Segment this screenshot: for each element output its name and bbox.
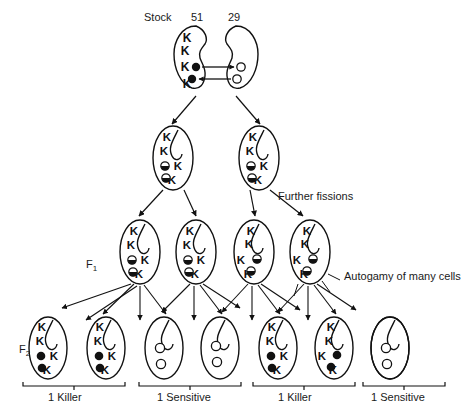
f2-letter: F [19, 343, 26, 355]
gene-K: K [260, 160, 269, 172]
gene-K: K [181, 60, 190, 74]
gene-K: K [249, 131, 258, 143]
f1-subscript: 1 [93, 264, 97, 273]
stock-label: Stock [144, 11, 172, 23]
gene-K: K [183, 31, 192, 45]
gene-K: K [327, 321, 336, 333]
gene-K: K [94, 335, 103, 347]
gene-K: K [186, 225, 195, 237]
lineage-arrow [172, 96, 196, 124]
gene-K: K [50, 350, 59, 362]
gene-K: K [245, 238, 254, 250]
gene-K: K [36, 335, 45, 347]
fission-arrow [144, 285, 166, 314]
kappa-filled-icon [192, 63, 200, 71]
lineage-arrow [236, 96, 260, 124]
gene-K: K [303, 225, 312, 237]
bracket-3 [253, 382, 355, 390]
kappa-half-group-f1 [128, 255, 317, 276]
bracket-4 [363, 382, 445, 390]
bracket-label-1: 1 Killer [48, 391, 82, 403]
further-fissions-label: Further fissions [278, 190, 353, 202]
kappa-open-icon [233, 75, 241, 83]
gene-K: K [38, 321, 47, 333]
gene-K: K [318, 350, 327, 362]
fission-arrow [162, 284, 190, 312]
bracket-2 [139, 382, 241, 390]
f1-label: F1 [86, 258, 97, 273]
gene-K: K [183, 239, 192, 251]
fission-arrow [62, 284, 131, 308]
gene-K: K [141, 254, 150, 266]
gene-K: K [237, 254, 246, 266]
autogamy-label: Autogamy of many cells [344, 270, 461, 282]
bracket-label-2: 1 Sensitive [157, 391, 211, 403]
f2-subscript: 2 [26, 349, 30, 358]
gene-K: K [108, 350, 117, 362]
gene-K: K [301, 238, 310, 250]
fission-arrow [222, 284, 248, 312]
gene-K: K [280, 350, 289, 362]
bracket-label-3: 1 Killer [278, 391, 312, 403]
gene-K: K [181, 44, 190, 58]
kappa-open-icon [237, 63, 245, 71]
gene-K: K [293, 254, 302, 266]
f1-letter: F [86, 258, 93, 270]
gene-K: K [96, 321, 105, 333]
stock-51-label: 51 [191, 11, 203, 23]
gene-K: K [127, 239, 136, 251]
gene-K: K [197, 254, 206, 266]
gene-K: K [130, 225, 139, 237]
gene-K: K [325, 335, 334, 347]
gene-K: K [174, 160, 183, 172]
kappa-filled-icon [188, 75, 196, 83]
gene-K: K [163, 131, 172, 143]
gene-K: K [268, 321, 277, 333]
lineage-arrow [139, 190, 163, 216]
stock-29-label: 29 [228, 11, 240, 23]
gene-K: K [266, 335, 275, 347]
lineage-arrow [184, 190, 196, 216]
gene-K: K [246, 145, 255, 157]
gene-K: K [160, 145, 169, 157]
bracket-1 [23, 382, 125, 390]
gene-K: K [247, 225, 256, 237]
f2-label: F2 [19, 343, 30, 358]
bracket-label-4: 1 Sensitive [371, 391, 425, 403]
lineage-arrow [250, 190, 255, 216]
